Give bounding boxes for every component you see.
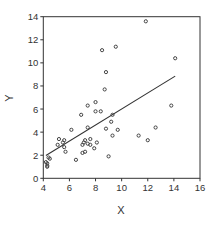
data-point bbox=[104, 71, 107, 74]
data-point bbox=[103, 88, 106, 91]
y-tick-label: 8 bbox=[33, 80, 38, 91]
data-point bbox=[64, 150, 67, 153]
y-tick-label: 4 bbox=[33, 127, 38, 138]
data-point bbox=[86, 126, 89, 129]
y-tick-label: 10 bbox=[28, 57, 39, 68]
data-point bbox=[94, 101, 97, 104]
data-point bbox=[56, 143, 59, 146]
x-axis-ticks: 46810121416 bbox=[41, 178, 206, 193]
regression-line bbox=[46, 76, 175, 155]
y-axis-ticks: 02468101214 bbox=[28, 11, 44, 184]
y-tick-label: 14 bbox=[28, 11, 39, 22]
data-point bbox=[63, 146, 66, 149]
data-point bbox=[107, 155, 110, 158]
x-tick-label: 8 bbox=[93, 182, 98, 193]
data-point bbox=[80, 113, 83, 116]
x-tick-label: 6 bbox=[67, 182, 72, 193]
data-point bbox=[144, 20, 147, 23]
y-tick-label: 2 bbox=[33, 150, 38, 161]
x-axis-label: X bbox=[117, 204, 125, 216]
x-tick-label: 14 bbox=[169, 182, 180, 193]
data-point bbox=[111, 134, 114, 137]
data-point bbox=[116, 128, 119, 131]
data-point bbox=[170, 104, 173, 107]
data-point bbox=[146, 139, 149, 142]
data-point bbox=[174, 57, 177, 60]
data-point bbox=[104, 127, 107, 130]
data-point bbox=[93, 147, 96, 150]
x-tick-label: 16 bbox=[195, 182, 206, 193]
data-point bbox=[74, 158, 77, 161]
data-point bbox=[114, 45, 117, 48]
y-tick-label: 0 bbox=[33, 173, 38, 184]
data-point bbox=[110, 120, 113, 123]
data-point bbox=[95, 141, 98, 144]
data-point bbox=[70, 128, 73, 131]
data-point bbox=[81, 143, 84, 146]
data-point bbox=[57, 137, 60, 140]
data-point bbox=[89, 137, 92, 140]
data-point bbox=[100, 49, 103, 52]
data-point bbox=[137, 134, 140, 137]
y-tick-label: 12 bbox=[28, 34, 39, 45]
y-axis-label: Y bbox=[3, 94, 15, 102]
plot-frame bbox=[43, 17, 200, 179]
x-tick-label: 4 bbox=[41, 182, 46, 193]
scatter-chart: 02468101214 46810121416 X Y bbox=[0, 0, 215, 225]
y-tick-label: 6 bbox=[33, 104, 38, 115]
x-tick-label: 10 bbox=[116, 182, 127, 193]
data-point bbox=[83, 150, 86, 153]
data-point bbox=[99, 110, 102, 113]
data-point bbox=[94, 110, 97, 113]
data-point bbox=[61, 141, 64, 144]
x-tick-label: 12 bbox=[142, 182, 153, 193]
data-points bbox=[44, 20, 176, 169]
data-point bbox=[86, 142, 89, 145]
data-point bbox=[86, 104, 89, 107]
data-point bbox=[154, 126, 157, 129]
